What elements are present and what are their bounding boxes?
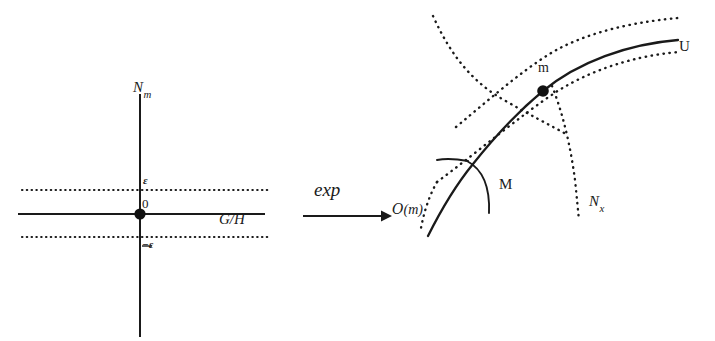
vertical-axis-label-subscript: m (143, 88, 151, 100)
transversal-nx-label-main: N (589, 193, 599, 209)
figure-canvas (0, 0, 715, 341)
exp-map-label: exp (314, 180, 340, 199)
vertical-axis-label: Nm (133, 80, 151, 98)
slice-top-stroke (437, 159, 468, 161)
transversal-nx-label: Nx (589, 194, 604, 212)
orbit-label: O(m) (392, 202, 423, 217)
slice-m-label: M (499, 177, 512, 192)
lower-epsilon-label: −ε (142, 239, 153, 250)
neighborhood-u-label: U (679, 39, 690, 54)
figure-container: Nm G/H 0 ε −ε exp m U M O(m) Nx (0, 0, 715, 341)
orbit-label-argument: (m) (403, 202, 422, 217)
left-transversal-dotted-curve (433, 16, 566, 134)
orbit-main-solid-curve (428, 40, 678, 236)
origin-label: 0 (142, 197, 149, 210)
right-panel-group (421, 16, 680, 236)
upper-epsilon-label: ε (143, 175, 148, 186)
exp-arrow-group (303, 211, 392, 222)
point-m-label: m (538, 61, 549, 75)
horizontal-axis-label: G/H (219, 212, 245, 227)
point-m-marker (537, 85, 549, 97)
upper-boundary-dotted-curve (456, 18, 678, 127)
exp-arrow-head (381, 211, 392, 222)
nx-transversal-dotted-curve (552, 86, 579, 220)
vertical-axis-label-main: N (133, 79, 143, 95)
transversal-nx-label-subscript: x (599, 202, 604, 214)
orbit-label-script-o: O (392, 201, 403, 217)
